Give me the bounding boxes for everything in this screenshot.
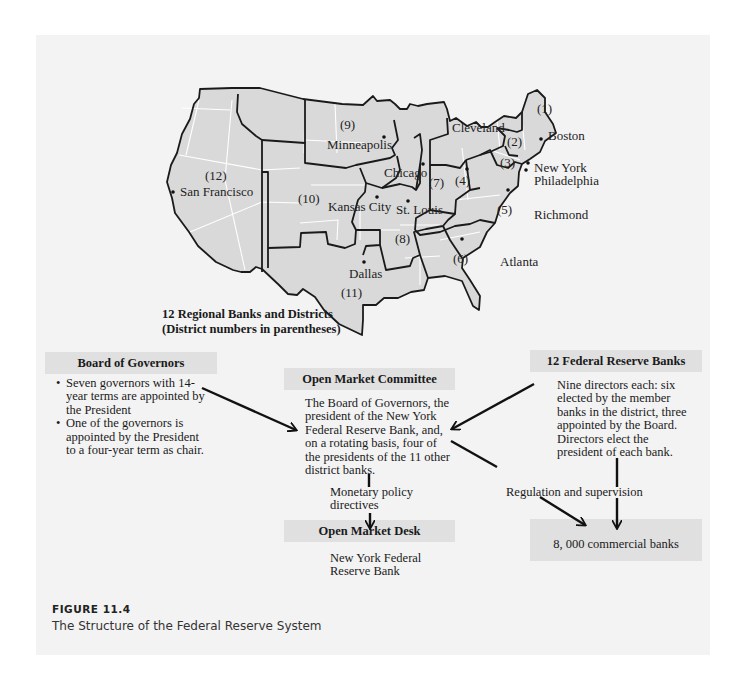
district-number: (1): [537, 101, 552, 116]
commercial-banks-box: 8, 000 commercial banks: [530, 519, 702, 561]
board-bullet-1: •Seven governors with 14-year terms are …: [56, 377, 206, 417]
board-of-governors-header: Board of Governors: [45, 352, 217, 374]
federal-reserve-districts-map: Boston New York Philadelphia Cleveland R…: [0, 0, 746, 683]
city-dot-philadelphia: [524, 168, 528, 172]
city-dot-dallas: [362, 260, 366, 264]
district-number: (8): [395, 231, 410, 246]
bullet-icon: •: [56, 377, 60, 390]
open-market-committee-description: The Board of Governors, the president of…: [305, 397, 451, 477]
city-dot-cleveland: [465, 167, 469, 171]
city-label-chicago: Chicago: [384, 165, 427, 180]
regulation-supervision-label: Regulation and supervision: [506, 486, 643, 499]
city-label-atlanta: Atlanta: [500, 254, 538, 269]
bullet-icon: •: [56, 417, 60, 430]
city-dot-boston: [539, 137, 543, 141]
map-caption: 12 Regional Banks and Districts (Distric…: [162, 307, 341, 337]
city-label-st-louis: St. Louis: [396, 202, 443, 217]
figure-title: The Structure of the Federal Reserve Sys…: [52, 619, 322, 633]
city-label-kansas-city: Kansas City: [328, 199, 392, 214]
board-bullet-2: •One of the governors is appointed by th…: [56, 417, 206, 457]
city-label-minneapolis: Minneapolis: [327, 137, 392, 152]
district-number: (10): [298, 191, 320, 206]
city-label-dallas: Dallas: [349, 266, 382, 281]
city-dot-richmond: [506, 188, 510, 192]
district-number: (12): [205, 168, 227, 183]
figure-number: FIGURE 11.4: [52, 603, 131, 615]
commercial-banks-label: 8, 000 commercial banks: [553, 537, 679, 551]
district-number: (11): [341, 285, 362, 300]
district-number: (7): [429, 175, 444, 190]
city-label-san-francisco: San Francisco: [180, 184, 253, 199]
district-number: (6): [453, 251, 468, 266]
federal-reserve-banks-description: Nine directors each: six elected by the …: [557, 379, 687, 459]
board-of-governors-list: •Seven governors with 14-year terms are …: [56, 377, 206, 457]
city-dot-atlanta: [460, 237, 464, 241]
open-market-desk-description: New York Federal Reserve Bank: [330, 552, 426, 579]
district-number: (2): [507, 134, 522, 149]
city-label-philadelphia: Philadelphia: [534, 173, 599, 188]
open-market-committee-header: Open Market Committee: [284, 368, 455, 390]
map-caption-line1: 12 Regional Banks and Districts: [162, 307, 341, 322]
federal-reserve-banks-header: 12 Federal Reserve Banks: [530, 350, 702, 372]
city-label-boston: Boston: [548, 128, 585, 143]
district-number: (3): [500, 155, 515, 170]
monetary-policy-label: Monetary policy directives: [330, 486, 416, 513]
city-dot-new-york: [526, 161, 530, 165]
district-number: (9): [340, 117, 355, 132]
city-label-cleveland: Cleveland: [452, 120, 505, 135]
city-label-richmond: Richmond: [534, 207, 589, 222]
open-market-desk-header: Open Market Desk: [284, 520, 455, 542]
district-number: (5): [497, 202, 512, 217]
district-number: (4): [455, 173, 470, 188]
map-caption-line2: (District numbers in parentheses): [162, 322, 341, 337]
city-dot-san-francisco: [171, 190, 175, 194]
